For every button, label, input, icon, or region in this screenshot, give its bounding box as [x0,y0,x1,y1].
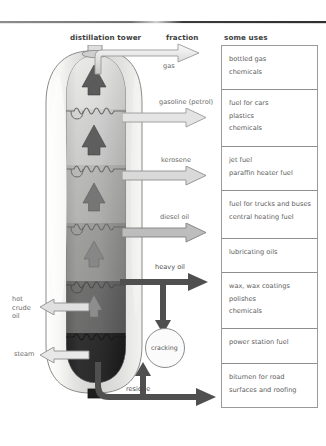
inlet-label-line-2: crude [12,304,31,313]
fraction-label-kerosene: kerosene [161,156,191,164]
uses-item: power station fuel [229,336,310,349]
inlet-label-line-1: steam [14,350,35,359]
fraction-label-heavy-oil: heavy oil [155,263,185,271]
fraction-arrow-diesel [122,223,208,243]
column-header-fraction: fraction [166,33,199,42]
uses-item: bottled gas [229,53,310,66]
uses-row-kerosene: jet fuel paraffin heater fuel [222,147,317,191]
fraction-arrow-gasoline [122,108,208,128]
fraction-arrow-kerosene [122,166,208,186]
uses-item: fuel for cars [229,97,310,110]
diagram-canvas: distillation tower fraction some uses [0,0,326,446]
uses-row-bitumen: bitumen for road surfaces and roofing [222,364,317,407]
inlet-arrow-hot-crude-oil [40,299,90,315]
uses-row-gas: bottled gas chemicals [222,46,317,90]
some-uses-table: bottled gas chemicals fuel for cars plas… [221,45,318,408]
header-divider-rule [0,21,326,23]
uses-item: paraffin heater fuel [229,167,310,180]
fraction-label-gas: gas [163,62,175,70]
fraction-label-diesel: diesel oil [160,213,189,221]
uses-row-lubricating: lubricating oils [222,239,317,273]
inlet-label-hot-crude-oil: hot crude oil [12,295,31,321]
tower-interior [62,51,130,391]
uses-item: chemicals [229,305,310,318]
column-header-distillation-tower: distillation tower [70,33,141,42]
uses-item: polishes [229,293,310,306]
uses-item: wax, wax coatings [229,280,310,293]
uses-item: plastics [229,110,310,123]
fraction-arrow-gas [86,43,206,77]
inlet-label-steam: steam [14,350,35,359]
fraction-label-residue: residue [126,385,150,393]
uses-row-gasoline: fuel for cars plastics chemicals [222,90,317,147]
inlet-label-line-1: hot [12,295,31,304]
inlet-arrow-steam [40,347,90,363]
uses-row-diesel: fuel for trucks and buses central heatin… [222,191,317,239]
uses-item: chemicals [229,122,310,135]
uses-item: surfaces and roofing [229,384,310,397]
fraction-label-gasoline: gasoline (petrol) [159,98,213,106]
uses-item: chemicals [229,66,310,79]
uses-row-wax: wax, wax coatings polishes chemicals [222,273,317,329]
column-header-some-uses: some uses [224,33,268,42]
uses-item: bitumen for road [229,371,310,384]
uses-row-power-station: power station fuel [222,329,317,364]
uses-item: lubricating oils [229,246,310,259]
cracking-label: cracking [151,344,178,351]
uses-item: fuel for trucks and buses [229,198,310,211]
inlet-label-line-3: oil [12,312,31,321]
uses-item: jet fuel [229,154,310,167]
uses-item: central heating fuel [229,211,310,224]
